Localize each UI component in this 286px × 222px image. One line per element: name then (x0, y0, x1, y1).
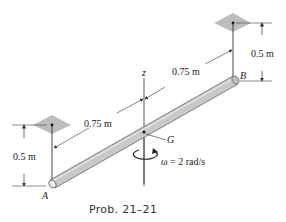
angular-velocity-arrow (133, 148, 158, 159)
problem-caption: Prob. 21–21 (89, 203, 157, 216)
omega-label: ω = 2 rad/s (161, 156, 205, 167)
center-of-mass-label: G (167, 134, 174, 145)
end-b-label: B (240, 70, 246, 81)
end-a-label: A (41, 190, 49, 201)
left-length-label: 0.75 m (84, 118, 112, 129)
left-height-label: 0.5 m (13, 151, 36, 162)
rod-diagram: 0.5 m 0.5 m z 0.75 m 0.75 m G (0, 0, 286, 222)
right-support-plate (214, 13, 251, 32)
z-axis-label: z (141, 67, 146, 78)
right-length-label: 0.75 m (172, 66, 200, 77)
center-of-mass-point (143, 131, 146, 134)
right-height-label: 0.5 m (251, 48, 274, 59)
left-height-dimension: 0.5 m (12, 125, 47, 186)
